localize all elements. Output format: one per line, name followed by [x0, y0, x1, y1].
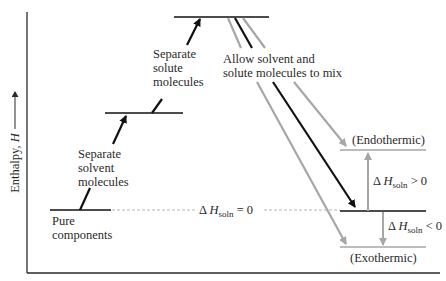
step1-arrow-icon [113, 116, 126, 144]
step2-arrow-icon [187, 19, 200, 45]
mix-ideal-arrow-icon [273, 82, 355, 207]
step2-tail [152, 99, 162, 113]
label-exothermic: (Exothermic) [350, 251, 417, 265]
mix-ideal-path-top [235, 18, 252, 48]
mix-exo-path-top [228, 18, 241, 48]
y-axis-label: Enthalpy, H [8, 133, 23, 193]
label-separate-solute: Separate solute molecules [153, 47, 204, 89]
label-pure-components: Pure components [52, 214, 112, 242]
label-delta-h-zero: Δ Hsoln = 0 [199, 203, 253, 221]
label-endothermic: (Endothermic) [352, 133, 425, 147]
label-mix: Allow solvent and solute molecules to mi… [223, 52, 342, 80]
mix-endo-path-top [243, 18, 265, 48]
label-delta-h-positive: Δ Hsoln > 0 [373, 174, 427, 192]
label-separate-solvent: Separate solvent molecules [78, 147, 129, 189]
label-delta-h-negative: Δ Hsoln < 0 [388, 219, 442, 237]
step1-tail [80, 188, 90, 210]
mix-exo-arrow-icon [257, 82, 346, 244]
mix-endo-arrow-icon [294, 82, 346, 146]
